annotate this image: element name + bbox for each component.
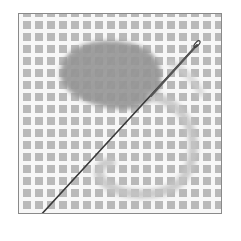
needlepoint-illustration [19, 14, 222, 214]
yarn-patch [60, 41, 161, 109]
needlepoint-photo [18, 13, 222, 214]
